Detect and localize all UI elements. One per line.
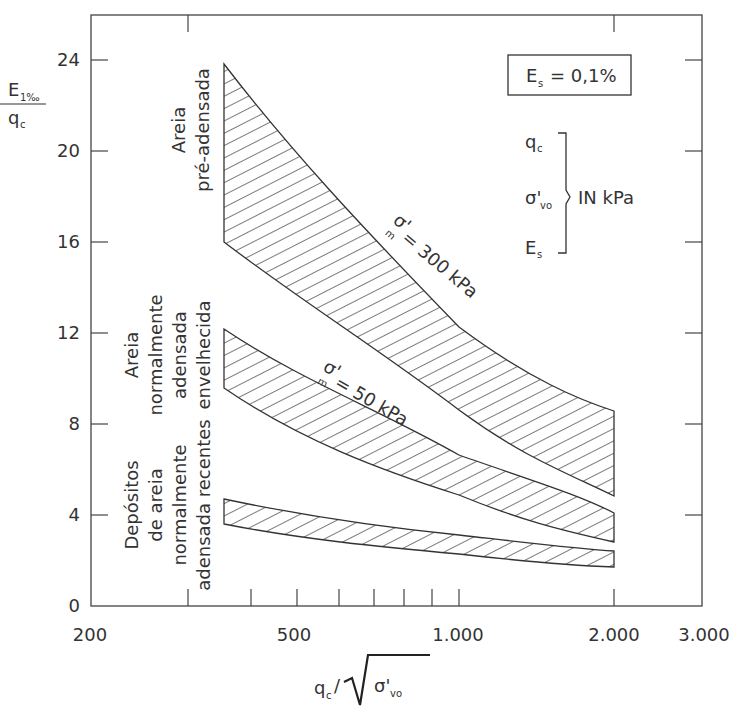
svg-text:c: c [326, 690, 332, 701]
x-tick-labels: 200 500 1.000 2.000 3.000 [73, 624, 730, 645]
y-axis-label: E 1‰ q c [0, 79, 46, 130]
svg-text:200: 200 [73, 624, 107, 645]
svg-text:normalmente: normalmente [169, 444, 190, 565]
svg-text:4: 4 [69, 504, 80, 525]
svg-text:2.000: 2.000 [588, 624, 640, 645]
svg-text:/: / [334, 675, 341, 696]
svg-text:σ': σ' [374, 675, 390, 696]
svg-text:de areia: de areia [145, 468, 166, 541]
svg-text:16: 16 [57, 231, 80, 252]
svg-text:q: q [525, 131, 536, 152]
svg-text:pré-adensada: pré-adensada [192, 68, 213, 192]
svg-text:3.000: 3.000 [678, 624, 730, 645]
es-box: E s = 0,1% [508, 55, 631, 95]
svg-text:adensada recentes: adensada recentes [193, 419, 214, 591]
svg-text:normalmente: normalmente [145, 294, 166, 415]
svg-text:0: 0 [69, 595, 80, 616]
svg-text:c: c [20, 119, 26, 130]
chart: 0 4 8 12 16 20 24 200 500 1.000 2.000 3.… [0, 0, 740, 713]
svg-text:Depósitos: Depósitos [121, 460, 142, 549]
svg-text:q: q [314, 677, 325, 698]
y-tick-labels: 0 4 8 12 16 20 24 [57, 49, 80, 616]
svg-text:1.000: 1.000 [432, 624, 484, 645]
svg-text:c: c [537, 143, 543, 154]
region-label-pre: Areia pré-adensada [168, 68, 213, 192]
svg-text:20: 20 [57, 140, 80, 161]
svg-text:envelhecida: envelhecida [193, 300, 214, 409]
band-pre-adensada [224, 64, 614, 496]
svg-text:500: 500 [277, 624, 311, 645]
svg-text:8: 8 [69, 413, 80, 434]
region-label-recent: Depósitos de areia normalmente adensada … [121, 419, 214, 591]
svg-text:E: E [525, 237, 536, 258]
svg-text:vo: vo [390, 688, 402, 699]
svg-text:12: 12 [57, 322, 80, 343]
svg-text:s: s [538, 78, 543, 89]
svg-text:s: s [537, 249, 542, 260]
svg-text:E: E [526, 65, 537, 86]
svg-text:Areia: Areia [168, 107, 189, 153]
svg-text:vo: vo [540, 200, 552, 211]
x-axis-label: q c / σ' vo [314, 655, 430, 705]
svg-text:24: 24 [57, 49, 80, 70]
svg-text:E: E [8, 79, 19, 100]
svg-text:Areia: Areia [121, 332, 142, 378]
svg-text:IN kPa: IN kPa [578, 187, 634, 208]
svg-text:= 0,1%: = 0,1% [550, 65, 617, 86]
svg-text:1‰: 1‰ [20, 92, 40, 103]
svg-text:adensada: adensada [169, 311, 190, 399]
units-legend: q c σ' vo E s IN kPa [525, 131, 634, 260]
svg-text:q: q [8, 107, 19, 128]
region-label-aged: Areia normalmente adensada envelhecida [121, 294, 214, 415]
svg-text:σ': σ' [525, 187, 541, 208]
